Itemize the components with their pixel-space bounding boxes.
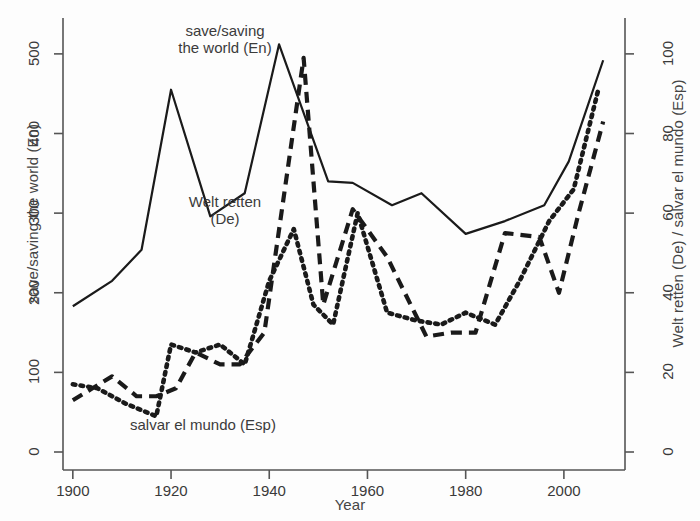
chart-figure: save/saving the world (En) Welt retten (… xyxy=(0,0,700,521)
x-tick-label: 1960 xyxy=(337,482,397,499)
y-right-tick-label: 0 xyxy=(659,424,676,480)
y-right-tick-label: 20 xyxy=(659,344,676,400)
y-left-tick-label: 200 xyxy=(25,264,42,320)
y-left-tick-label: 100 xyxy=(25,344,42,400)
series-annotation-german: Welt retten (De) xyxy=(150,193,300,227)
series-annotation-spanish: salvar el mundo (Esp) xyxy=(130,416,360,433)
data-series-group xyxy=(73,44,603,416)
x-tick-label: 1940 xyxy=(239,482,299,499)
series-annotation-english: save/saving the world (En) xyxy=(150,22,300,56)
y-right-tick-label: 100 xyxy=(659,25,676,81)
y-left-tick-label: 0 xyxy=(25,424,42,480)
x-tick-label: 2000 xyxy=(534,482,594,499)
y-right-tick-label: 80 xyxy=(659,105,676,161)
y-left-tick-label: 400 xyxy=(25,105,42,161)
x-tick-label: 1920 xyxy=(141,482,201,499)
y-right-tick-label: 60 xyxy=(659,185,676,241)
y-right-tick-label: 40 xyxy=(659,264,676,320)
series-line xyxy=(73,44,603,306)
series-line xyxy=(73,90,598,416)
chart-plot-area xyxy=(0,0,700,521)
y-left-tick-label: 300 xyxy=(25,185,42,241)
x-tick-label: 1900 xyxy=(43,482,103,499)
series-line xyxy=(73,58,603,400)
x-tick-label: 1980 xyxy=(436,482,496,499)
y-left-tick-label: 500 xyxy=(25,25,42,81)
